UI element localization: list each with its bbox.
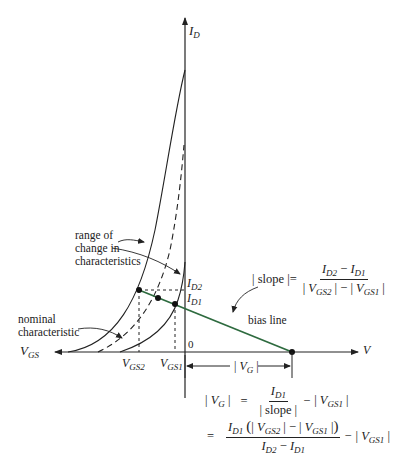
nominal-characteristic-annotation: nominal characteristic: [18, 313, 79, 339]
vgs2-label: VGS2: [122, 356, 145, 374]
vg-dimension-label: | VG |: [234, 359, 259, 377]
slope-formula: | slope |= ID2 − ID1 | VGS2 | − | VGS1 |: [252, 262, 387, 297]
vg-formula-line2: = ID1 (| VGS2 | − | VGS1 |) ID2 − ID1 − …: [207, 418, 390, 455]
point-vgs1-id1: [172, 301, 178, 307]
point-nominal: [155, 295, 161, 301]
range-of-change-annotation: range of change in characteristics: [75, 229, 141, 268]
bias-line-label: bias line: [248, 313, 287, 327]
characteristic-curve-outer: [68, 70, 185, 352]
id-axis-label: ID: [189, 24, 200, 42]
vgs1-label: VGS1: [160, 356, 183, 374]
v-axis-label: V: [363, 343, 370, 357]
vg-formula-line1: | VG | = ID1 | slope | − | VGS1 |: [205, 384, 349, 418]
origin-label: 0: [188, 337, 194, 351]
id1-label: ID1: [187, 291, 202, 309]
point-vgs2-id2: [136, 287, 142, 293]
vgs-axis-label: VGS: [20, 344, 39, 362]
nominal-arrow: [78, 328, 122, 338]
